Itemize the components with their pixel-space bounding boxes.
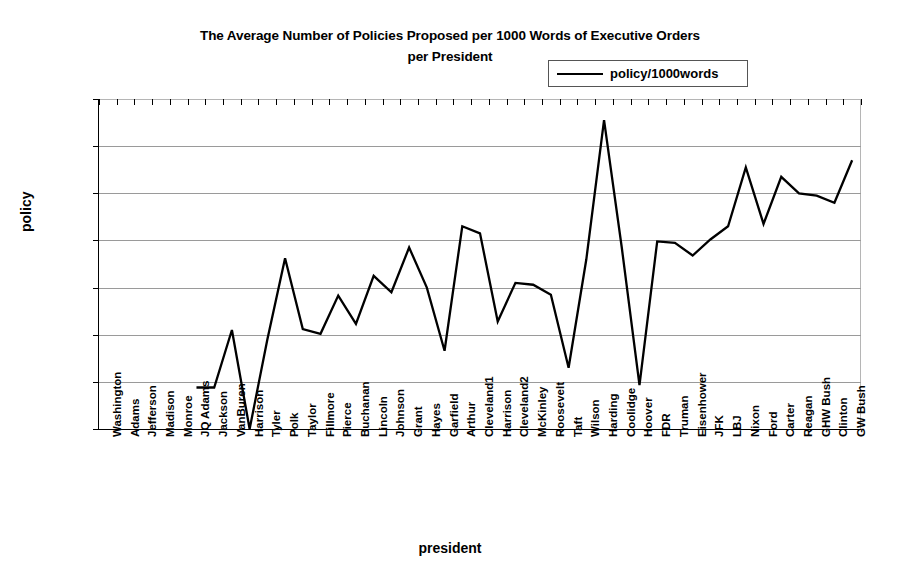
x-tick-label: Reagan — [803, 395, 815, 437]
x-tick-label: Nixon — [750, 405, 762, 437]
x-tick-label: Wilson — [590, 399, 602, 437]
legend-series-label: policy/1000words — [610, 66, 718, 81]
x-tick-label: Harding — [608, 394, 620, 437]
chart-container: The Average Number of Policies Proposed … — [0, 0, 900, 576]
x-tick-label: McKinley — [537, 387, 549, 438]
x-tick-label: Eisenhower — [697, 372, 709, 437]
x-tick-label: Monroe — [183, 395, 195, 437]
x-tick-label: Coolidge — [626, 388, 638, 437]
x-tick-label: Grant — [413, 406, 425, 437]
x-tick-label: Truman — [679, 395, 691, 437]
x-tick-label: Adams — [130, 399, 142, 437]
x-tick-label: Jefferson — [147, 385, 159, 437]
x-tick-label: Johnson — [395, 389, 407, 437]
y-tick-mark — [93, 429, 99, 430]
x-tick-label: Fillmore — [325, 392, 337, 437]
chart-title-line-1: The Average Number of Policies Proposed … — [0, 28, 900, 43]
data-line-series — [99, 99, 861, 429]
x-tick-label: Washington — [112, 372, 124, 437]
x-tick-label: GHW Bush — [821, 377, 833, 437]
x-tick-label: Buchanan — [360, 381, 372, 437]
x-tick-label: FDR — [661, 413, 673, 437]
x-tick-label: Clinton — [838, 397, 850, 437]
x-tick-label: Arthur — [466, 402, 478, 437]
x-tick-label: Pierce — [342, 402, 354, 437]
x-tick-label: Roosevelt — [555, 382, 567, 437]
x-tick-label: Garfield — [449, 394, 461, 437]
x-tick-label: Hayes — [431, 403, 443, 437]
chart-title-line-2: per President — [0, 49, 900, 64]
x-tick-label: Taft — [573, 417, 585, 437]
x-tick-label: JFK — [714, 415, 726, 437]
y-axis-title: policy — [18, 192, 34, 232]
x-tick-label: Lincoln — [378, 396, 390, 437]
x-tick-label: Carter — [785, 403, 797, 437]
x-tick-mark — [861, 99, 862, 105]
x-tick-label: Polk — [289, 413, 301, 437]
x-tick-label: LBJ — [732, 415, 744, 437]
x-tick-label: JQ Adams — [200, 381, 212, 437]
x-tick-label: Tyler — [271, 410, 283, 437]
x-tick-label: Cleveland1 — [484, 376, 496, 437]
legend-line-swatch — [557, 73, 603, 75]
x-tick-label: Ford — [768, 411, 780, 437]
x-tick-label: Harrison — [254, 390, 266, 437]
x-tick-label: Taylor — [307, 403, 319, 437]
x-tick-label: VanBuren — [236, 383, 248, 437]
x-axis-title: president — [0, 540, 900, 556]
x-tick-label: Cleveland2 — [519, 376, 531, 437]
x-tick-label: Harrison — [502, 390, 514, 437]
x-tick-label: GW Bush — [856, 385, 868, 437]
plot-area: 010203040506070 — [98, 99, 861, 430]
chart-legend: policy/1000words — [548, 60, 748, 87]
x-tick-label: Madison — [165, 390, 177, 437]
x-tick-label: Hoover — [643, 397, 655, 437]
x-tick-label: Jackson — [218, 391, 230, 437]
